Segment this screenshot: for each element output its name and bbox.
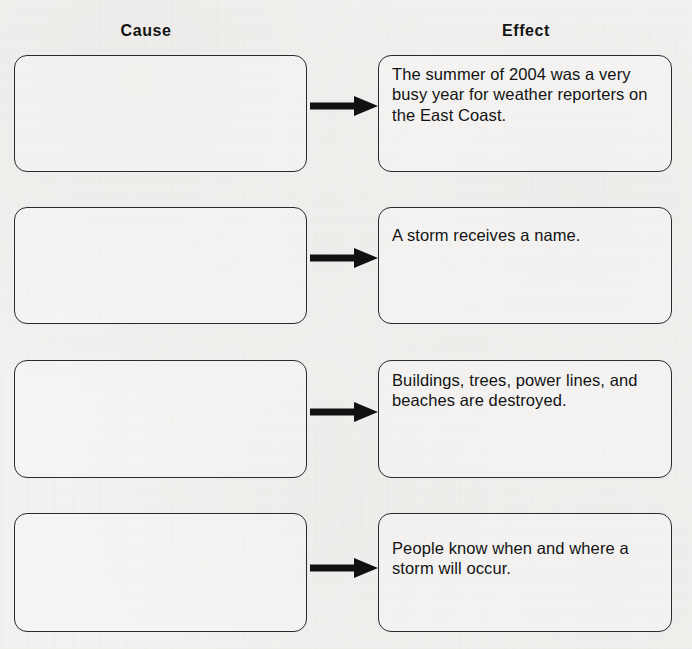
effect-box-2[interactable]: A storm receives a name. [378,207,672,324]
cause-box-4[interactable] [14,513,307,632]
right-arrow-icon-4 [310,557,378,579]
effect-box-4[interactable]: People know when and where a storm will … [378,513,672,632]
right-arrow-icon-3 [310,401,378,423]
effect-box-1[interactable]: The summer of 2004 was a very busy year … [378,55,672,172]
cause-box-3[interactable] [14,360,307,478]
cause-box-2[interactable] [14,207,307,324]
effect-text-2: A storm receives a name. [392,225,660,245]
column-heading-effect: Effect [502,22,550,40]
column-heading-cause: Cause [120,22,171,40]
effect-text-1: The summer of 2004 was a very busy year … [392,64,660,125]
effect-text-4: People know when and where a storm will … [392,538,660,579]
right-arrow-icon-2 [310,247,378,269]
right-arrow-icon-1 [310,95,378,117]
effect-text-3: Buildings, trees, power lines, and beach… [392,370,660,411]
effect-box-3[interactable]: Buildings, trees, power lines, and beach… [378,360,672,478]
cause-box-1[interactable] [14,55,307,172]
cause-effect-worksheet: Cause Effect The summer of 2004 was a ve… [0,0,692,649]
